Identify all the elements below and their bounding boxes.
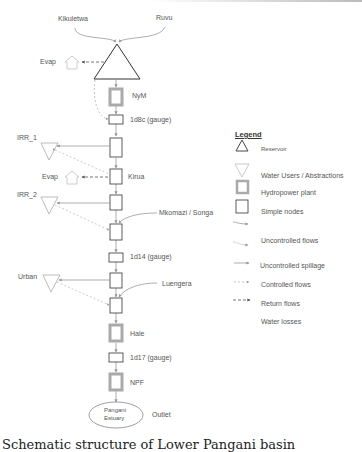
hydropower-icon (237, 181, 248, 193)
inflow-label-kikuletwa: Kikuletwa (58, 15, 88, 22)
irr2-label: IRR_2 (17, 191, 37, 198)
urban-label: Urban (18, 273, 37, 280)
legend-label-hydropower: Hydropower plant (261, 189, 316, 196)
hale-label: Hale (130, 330, 144, 337)
legend-label-spillage: Uncontrolled spillage (260, 262, 325, 269)
gauge-1d14 (109, 253, 123, 262)
legend-label-water-losses: Water losses (261, 318, 301, 325)
simple-node-3 (110, 195, 122, 210)
gauge-1d8c-label: 1d8c (gauge) (130, 116, 171, 123)
evap-mid-label: Evap (42, 173, 58, 180)
hydropower-npf (110, 374, 122, 390)
mkomazi-label: Mkomazi / Songa (159, 209, 213, 216)
evap-top-icon (65, 56, 79, 69)
legend-label-controlled-flows: Controlled flows (261, 281, 311, 288)
irr1-label: IRR_1 (17, 134, 37, 141)
gauge-1d17-label: 1d17 (gauge) (130, 354, 172, 361)
inflow-label-ruvu: Ruvu (156, 14, 172, 21)
reservoir-icon (236, 140, 248, 151)
gauge-1d17 (109, 353, 123, 362)
estuary-label-line2: Estuary (104, 415, 124, 421)
npf-label: NPF (130, 379, 144, 386)
gauge-1d8c (109, 115, 123, 124)
legend-label-simple-nodes: Simple nodes (261, 208, 303, 215)
evap-mid-icon (65, 171, 79, 184)
simple-node-kirua (110, 169, 122, 184)
evap-top-label: Evap (40, 58, 56, 65)
legend-title: Legend (235, 130, 262, 139)
reservoir-node (94, 44, 140, 79)
water-user-icon (235, 164, 249, 177)
kirua-label: Kirua (128, 173, 144, 180)
luengera-label: Luengera (162, 280, 192, 287)
inflow-curves (75, 27, 165, 42)
nym-label: NyM (132, 92, 146, 99)
legend-label-uncontrolled-flows: Uncontrolled flows (261, 237, 318, 244)
outlet-label: Outlet (152, 411, 171, 418)
water-user-urban (43, 275, 60, 292)
gauge-1d14-label: 1d14 (gauge) (130, 253, 172, 260)
legend-label-water-users: Water Users / Abstractions (261, 172, 344, 179)
spillage-icon (233, 242, 248, 245)
estuary-label-line1: Pangani (104, 407, 126, 413)
hydropower-hale (110, 325, 122, 341)
simple-node-1 (110, 138, 122, 157)
legend-label-reservoir: Reservoir (261, 146, 287, 152)
uncontrolled-flow-icon (233, 222, 248, 224)
simple-node-4 (110, 224, 122, 240)
simple-node-5 (110, 273, 122, 288)
simple-node-6 (110, 298, 122, 313)
legend-label-return-flows: Return flows (261, 300, 300, 307)
figure-caption: Schematic structure of Lower Pangani bas… (2, 437, 295, 452)
simple-node-icon (236, 200, 248, 213)
legend-icons (233, 140, 250, 300)
hydropower-nym (110, 89, 122, 105)
water-user-irr1 (41, 143, 58, 160)
